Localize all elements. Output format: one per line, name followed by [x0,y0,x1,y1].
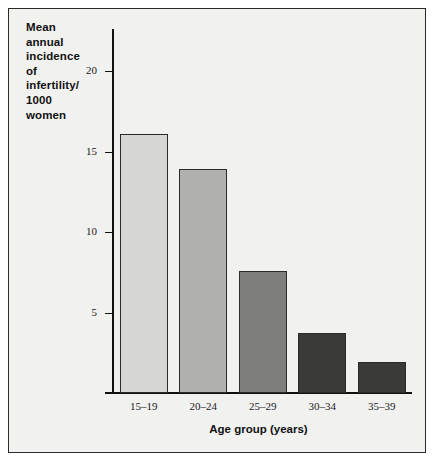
x-axis-tick-label-5: 35–39 [352,400,412,412]
y-axis-tick-label-20: 20 [67,64,97,76]
y-axis-title-line-2: annual [26,35,102,50]
y-axis-tick-label-10: 10 [67,225,97,237]
x-axis-title: Age group (years) [105,423,412,435]
x-axis-tick-label-1: 15–19 [114,400,174,412]
y-axis-title-line-6: 1000 [26,93,102,108]
y-axis-title-line-1: Mean [26,20,102,35]
bar-20-24 [179,169,227,393]
bar-25-29 [239,271,287,393]
y-axis-tick-15 [105,152,114,153]
y-axis-tick-label-5: 5 [67,306,97,318]
chart-figure-frame: Mean annual incidence of infertility/ 10… [8,8,426,453]
x-axis-tick-label-3: 25–29 [233,400,293,412]
y-axis-title-line-5: infertility/ [26,78,102,93]
bar-15-19 [120,134,168,393]
y-axis-tick-label-15: 15 [67,145,97,157]
y-axis-line [112,29,114,394]
y-axis-tick-20 [105,71,114,72]
y-axis-title-line-3: incidence [26,49,102,64]
bar-30-34 [298,333,346,393]
chart-plot-area: Mean annual incidence of infertility/ 10… [9,9,425,452]
y-axis-title-line-7: women [26,108,102,123]
x-axis-tick-label-4: 30–34 [293,400,353,412]
y-axis-tick-5 [105,313,114,314]
x-axis-tick-label-2: 20–24 [174,400,234,412]
y-axis-tick-10 [105,232,114,233]
bar-35-39 [358,362,406,393]
